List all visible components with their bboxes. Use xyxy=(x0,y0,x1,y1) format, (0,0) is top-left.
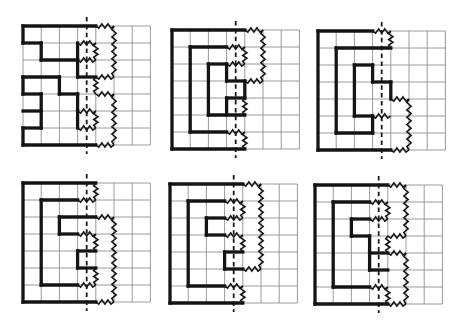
puzzle-panel-2 xyxy=(162,17,309,162)
panel-6-drawing xyxy=(305,172,452,317)
puzzle-panel-3 xyxy=(308,18,455,163)
puzzle-panel-4 xyxy=(13,170,160,315)
shape-outline-torn-edge xyxy=(370,183,409,306)
shape-outline-torn-edge xyxy=(225,182,264,303)
puzzle-panel-1 xyxy=(13,13,160,158)
panel-3-drawing xyxy=(308,18,455,163)
puzzle-panel-5 xyxy=(160,171,307,316)
panel-4-drawing xyxy=(13,170,160,315)
puzzle-figure-sheet xyxy=(0,0,462,323)
shape-outline-solid xyxy=(318,31,391,150)
shape-outline-torn-edge xyxy=(78,183,117,304)
panel-5-drawing xyxy=(160,171,307,316)
shape-outline-torn-edge xyxy=(78,24,117,147)
panel-1-drawing xyxy=(13,13,160,158)
panel-2-drawing xyxy=(162,17,309,162)
puzzle-panel-6 xyxy=(305,172,452,317)
